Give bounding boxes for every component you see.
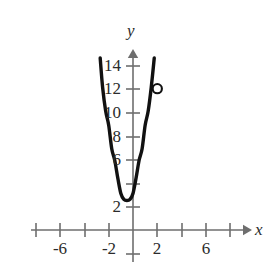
y-axis-arrowhead xyxy=(128,49,138,58)
coordinate-plane xyxy=(0,0,274,272)
x-tick-label-6: 6 xyxy=(193,240,219,257)
y-tick-label-6: 6 xyxy=(94,151,121,168)
x-tick-label--2: -2 xyxy=(91,240,127,257)
open-circle-point xyxy=(153,84,162,93)
y-tick-label-10: 10 xyxy=(94,104,121,121)
x-axis-label: x xyxy=(255,221,263,238)
x-tick-label--6: -6 xyxy=(42,240,78,257)
x-tick-label-2: 2 xyxy=(144,240,170,257)
y-tick-label-8: 8 xyxy=(94,128,121,145)
y-tick-label-2: 2 xyxy=(94,198,121,215)
y-axis-label: y xyxy=(127,22,135,39)
y-tick-label-12: 12 xyxy=(94,80,121,97)
y-tick-label-14: 14 xyxy=(94,57,121,74)
x-axis-arrowhead xyxy=(243,225,252,235)
graph-figure: y x 14 12 10 8 6 2 -6 -2 2 6 xyxy=(0,0,274,272)
